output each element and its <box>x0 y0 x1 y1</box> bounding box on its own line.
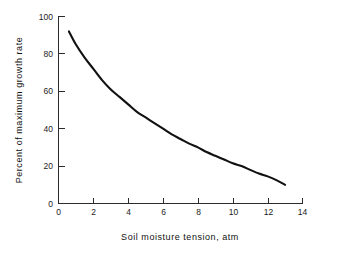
x-tick-label-12: 12 <box>264 207 274 217</box>
x-tick-label-10: 10 <box>229 207 239 217</box>
y-tick-label-60: 60 <box>44 86 54 96</box>
y-tick-label-20: 20 <box>44 161 54 171</box>
y-tick-label-0: 0 <box>48 199 53 209</box>
x-tick-label-2: 2 <box>91 207 96 217</box>
x-tick-label-14: 14 <box>298 207 308 217</box>
y-tick-label-80: 80 <box>44 49 54 59</box>
y-tick-label-100: 100 <box>39 12 53 22</box>
x-tick-label-8: 8 <box>196 207 201 217</box>
x-tick-label-4: 4 <box>126 207 131 217</box>
y-axis-title: Percent of maximum growth rate <box>14 37 24 184</box>
y-tick-label-40: 40 <box>44 124 54 134</box>
x-tick-label-6: 6 <box>161 207 166 217</box>
x-axis-title: Soil moisture tension, atm <box>121 232 239 242</box>
x-tick-label-0: 0 <box>56 207 61 217</box>
growth-rate-chart: 100 80 60 40 20 0 0 2 4 6 8 10 12 14 Soi… <box>0 0 345 256</box>
